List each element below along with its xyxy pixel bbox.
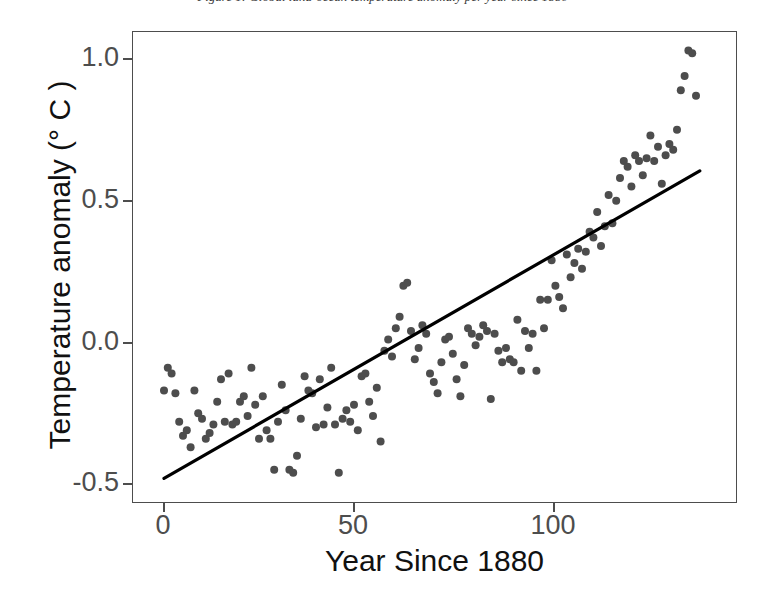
data-point [669, 146, 677, 154]
data-point [551, 282, 559, 290]
y-tick-label: 1.0 [49, 44, 119, 71]
figure-caption-sliver: Figure 1: Global land-ocean temperature … [0, 0, 765, 5]
data-point [502, 344, 510, 352]
data-point [472, 341, 480, 349]
data-point [411, 355, 419, 363]
data-point [392, 324, 400, 332]
data-point [206, 429, 214, 437]
data-point [247, 364, 255, 372]
data-point [171, 389, 179, 397]
data-point [160, 387, 168, 395]
data-point [525, 344, 533, 352]
y-tick-mark [123, 483, 132, 485]
data-point [335, 469, 343, 477]
data-point [650, 157, 658, 165]
data-point [688, 49, 696, 57]
data-point [342, 406, 350, 414]
data-point [673, 126, 681, 134]
data-point [654, 143, 662, 151]
data-point [555, 293, 563, 301]
data-point [316, 375, 324, 383]
data-point [274, 418, 282, 426]
data-point [559, 304, 567, 312]
y-tick-mark [123, 200, 132, 202]
data-point [483, 327, 491, 335]
data-point [415, 344, 423, 352]
data-point [544, 296, 552, 304]
data-point [327, 364, 335, 372]
data-point [456, 392, 464, 400]
data-point [563, 251, 571, 259]
data-point [217, 375, 225, 383]
data-point [624, 163, 632, 171]
data-point [529, 330, 537, 338]
data-point [320, 421, 328, 429]
data-point [567, 273, 575, 281]
data-point [346, 418, 354, 426]
x-axis-title: Year Since 1880 [132, 546, 737, 576]
data-point [658, 180, 666, 188]
data-point [574, 245, 582, 253]
chart-page: Figure 1: Global land-ocean temperature … [0, 0, 765, 592]
data-point [168, 370, 176, 378]
data-point [255, 435, 263, 443]
data-point [662, 151, 670, 159]
data-point [354, 426, 362, 434]
data-point [430, 378, 438, 386]
y-tick-label: 0.0 [49, 328, 119, 355]
data-point [453, 375, 461, 383]
data-point [232, 418, 240, 426]
data-point [582, 248, 590, 256]
y-axis-title: Temperature anomaly (° C ) [45, 25, 75, 505]
data-point [426, 370, 434, 378]
data-point [635, 157, 643, 165]
data-point [190, 387, 198, 395]
data-point [491, 330, 499, 338]
data-point [468, 330, 476, 338]
data-point [494, 347, 502, 355]
data-point [437, 358, 445, 366]
data-point [517, 367, 525, 375]
data-point [221, 418, 229, 426]
data-point [597, 242, 605, 250]
data-point [183, 426, 191, 434]
data-point [540, 324, 548, 332]
data-point [536, 296, 544, 304]
data-point [388, 353, 396, 361]
data-point [578, 265, 586, 273]
data-point [365, 398, 373, 406]
data-point [498, 358, 506, 366]
data-point [627, 183, 635, 191]
x-tick-label: 50 [308, 512, 398, 539]
scatter-plot-canvas [133, 32, 738, 504]
data-point [339, 415, 347, 423]
data-point [293, 452, 301, 460]
data-point [396, 313, 404, 321]
data-point [198, 415, 206, 423]
data-point [225, 370, 233, 378]
data-point [434, 389, 442, 397]
data-point [270, 466, 278, 474]
data-point [350, 401, 358, 409]
data-point [487, 395, 495, 403]
data-point [692, 92, 700, 100]
data-point [639, 171, 647, 179]
data-point [513, 316, 521, 324]
data-point [289, 469, 297, 477]
data-point [251, 401, 259, 409]
data-point [278, 381, 286, 389]
y-tick-label: 0.5 [49, 186, 119, 213]
data-point [187, 443, 195, 451]
data-point [244, 412, 252, 420]
y-tick-label: -0.5 [49, 469, 119, 496]
data-point [445, 333, 453, 341]
x-tick-label: 0 [118, 512, 208, 539]
regression-trend-line [164, 171, 700, 478]
data-point [521, 327, 529, 335]
data-point [259, 392, 267, 400]
data-point [475, 333, 483, 341]
data-point [510, 358, 518, 366]
data-point [312, 423, 320, 431]
data-point [677, 86, 685, 94]
data-point [209, 421, 217, 429]
